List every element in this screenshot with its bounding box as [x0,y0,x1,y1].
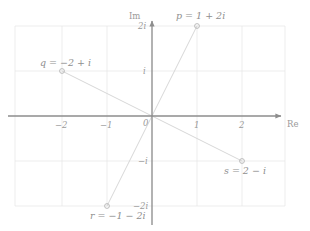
x-tick-0: 0 [143,119,148,128]
x-tick-1: 1 [194,121,199,130]
plot-canvas [0,0,310,231]
argand-diagram-figure: Im Re −2 −1 0 1 2 2i i −i −2i p = 1 + 2i… [0,0,310,231]
imag-axis-name: Im [129,12,140,21]
y-tick-2i: 2i [138,22,146,31]
x-tick-2: 2 [239,121,244,130]
x-tick--1: −1 [100,121,113,130]
point-label-p: p = 1 + 2i [176,11,225,21]
point-label-q: q = −2 + i [40,58,91,68]
y-tick-i: i [143,67,146,76]
y-tick--i: −i [138,157,148,166]
x-tick--2: −2 [55,121,68,130]
real-axis-name: Re [287,120,298,129]
point-label-s: s = 2 − i [224,166,266,176]
point-label-r: r = −1 − 2i [90,211,146,221]
